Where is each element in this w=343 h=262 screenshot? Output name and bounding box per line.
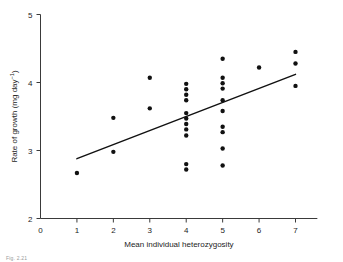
- x-tick-label: 0: [38, 226, 43, 235]
- data-point: [184, 167, 188, 171]
- data-point: [148, 76, 152, 80]
- data-point: [220, 57, 224, 61]
- trend-line-group: [77, 74, 296, 158]
- chart-canvas: 2345 01234567 Mean individual heterozygo…: [0, 0, 343, 262]
- regression-line: [77, 74, 296, 158]
- data-point: [111, 150, 115, 154]
- y-tick-label: 3: [28, 147, 33, 156]
- y-tick-label: 4: [28, 79, 33, 88]
- data-point: [220, 76, 224, 80]
- x-axis-ticks: [77, 219, 296, 223]
- data-point: [184, 162, 188, 166]
- data-point: [184, 98, 188, 102]
- data-point: [184, 82, 188, 86]
- data-points-group: [75, 50, 298, 175]
- x-axis-group: 01234567: [38, 219, 317, 235]
- data-point: [293, 84, 297, 88]
- y-tick-label: 2: [28, 215, 33, 224]
- figure-caption: Fig. 2.21: [6, 255, 27, 261]
- y-axis-title-tail: ): [10, 70, 19, 73]
- x-tick-label: 7: [293, 226, 298, 235]
- scatter-points: [75, 50, 298, 175]
- data-point: [220, 163, 224, 167]
- data-point: [220, 130, 224, 134]
- data-point: [75, 171, 79, 175]
- svg-text:Rate of growth (mg day−1): Rate of growth (mg day−1): [9, 70, 19, 163]
- x-tick-label: 6: [257, 226, 262, 235]
- data-point: [293, 61, 297, 65]
- scatter-plot-figure: 2345 01234567 Mean individual heterozygo…: [0, 0, 343, 262]
- y-axis-title-main: Rate of growth (mg day: [10, 79, 19, 162]
- y-tick-label: 5: [28, 11, 33, 20]
- x-tick-label: 1: [75, 226, 80, 235]
- data-point: [293, 50, 297, 54]
- data-point: [184, 87, 188, 91]
- data-point: [220, 81, 224, 85]
- x-tick-label: 4: [184, 226, 189, 235]
- data-point: [257, 65, 261, 69]
- x-tick-label: 3: [148, 226, 153, 235]
- x-axis-title: Mean individual heterozygosity: [124, 240, 233, 249]
- data-point: [220, 109, 224, 113]
- data-point: [111, 116, 115, 120]
- y-axis-tick-labels: 2345: [28, 11, 33, 224]
- data-point: [220, 86, 224, 90]
- data-point: [184, 122, 188, 126]
- x-axis-tick-labels: 01234567: [38, 226, 298, 235]
- y-axis-ticks: [37, 15, 41, 219]
- data-point: [184, 133, 188, 137]
- data-point: [184, 111, 188, 115]
- data-point: [184, 93, 188, 97]
- y-axis-title: Rate of growth (mg day−1): [9, 70, 19, 163]
- data-point: [220, 125, 224, 129]
- x-tick-label: 5: [220, 226, 225, 235]
- data-point: [184, 127, 188, 131]
- data-point: [148, 106, 152, 110]
- y-axis-group: 2345: [28, 11, 40, 224]
- x-tick-label: 2: [111, 226, 116, 235]
- data-point: [220, 146, 224, 150]
